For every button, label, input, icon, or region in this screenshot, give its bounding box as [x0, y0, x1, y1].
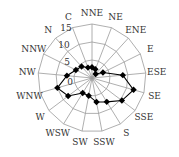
direction-label-c: C [65, 12, 72, 22]
direction-label-ese: ESE [147, 67, 166, 77]
direction-label-e: E [147, 44, 154, 54]
direction-label-ene: ENE [125, 25, 146, 35]
direction-label-nnw: NNW [21, 44, 47, 54]
marker-c [85, 64, 91, 70]
direction-label-nw: NW [19, 67, 37, 77]
marker-e [100, 69, 106, 75]
tick-label-15: 15 [60, 23, 72, 33]
direction-label-s: S [123, 128, 129, 138]
wind-rose-chart: 051015 NNENEENEEESESESSESSSWSWWSWWWNWNWN… [0, 0, 179, 157]
tick-label-5: 5 [64, 57, 70, 67]
tick-label-10: 10 [58, 40, 70, 50]
direction-label-sw: SW [72, 137, 88, 147]
marker-nnw [73, 67, 79, 73]
direction-label-wnw: WNW [16, 91, 43, 101]
direction-label-w: W [35, 112, 45, 122]
direction-label-se: SE [148, 91, 161, 101]
radial-grid [38, 24, 146, 131]
direction-label-n: N [44, 25, 52, 35]
direction-label-wsw: WSW [45, 128, 70, 138]
marker-s [104, 99, 110, 105]
spoke-ene [92, 38, 128, 78]
marker-wsw [80, 90, 86, 96]
direction-label-ne: NE [108, 12, 122, 22]
direction-label-nne: NNE [81, 8, 103, 18]
tick-label-0: 0 [67, 77, 73, 87]
direction-label-sse: SSE [134, 112, 153, 122]
direction-label-ssw: SSW [93, 137, 115, 147]
